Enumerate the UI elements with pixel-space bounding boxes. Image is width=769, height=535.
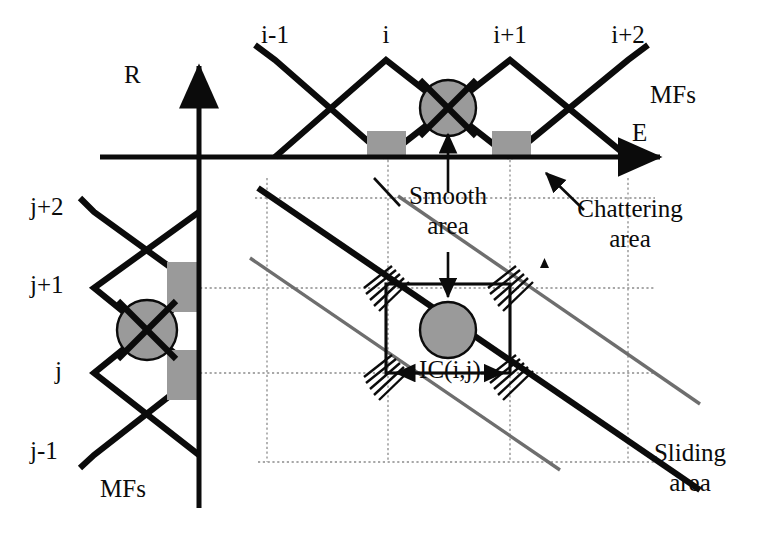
left-mf-label-j: j bbox=[55, 358, 62, 384]
left-mfs-legend: MFs bbox=[100, 476, 146, 502]
left-mf-label-j-minus-1: j-1 bbox=[30, 438, 58, 464]
intersection-center-label: IC(i,j) bbox=[419, 357, 481, 383]
chattering-area-label-line2: area bbox=[609, 226, 651, 252]
top-mf-label-i-plus-2: i+2 bbox=[611, 22, 645, 48]
left-mf-label-j-plus-1: j+1 bbox=[30, 272, 64, 298]
chattering-area-label-line1: Chattering bbox=[577, 196, 683, 222]
intersection-circle bbox=[420, 302, 476, 358]
top-mf-label-i: i bbox=[383, 22, 390, 48]
top-mf-label-i-plus-1: i+1 bbox=[493, 22, 527, 48]
error-axis-label: E bbox=[632, 120, 647, 146]
smooth-area-label-line1: Smooth bbox=[409, 183, 487, 209]
sliding-area-label-line2: area bbox=[669, 470, 711, 496]
top-mf-label-i-minus-1: i-1 bbox=[261, 22, 289, 48]
left-mf-label-j-plus-2: j+2 bbox=[30, 194, 64, 220]
chattering-region-triangle-marker bbox=[540, 258, 549, 268]
top-mfs-legend: MFs bbox=[650, 82, 696, 108]
figure-root: i-1 i i+1 i+2 R E MFs MFs j+2 j+1 j j-1 … bbox=[0, 0, 769, 535]
rate-axis-label: R bbox=[124, 62, 141, 88]
smooth-area-label-line2: area bbox=[427, 213, 469, 239]
sliding-area-label-line1: Sliding bbox=[654, 440, 726, 466]
smooth-label-tick bbox=[374, 178, 400, 206]
